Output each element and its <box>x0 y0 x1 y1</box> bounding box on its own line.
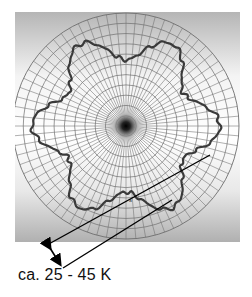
annotation-label: ca. 25 - 45 K <box>18 266 111 284</box>
center-dot <box>112 112 140 140</box>
polar-diagram: a <box>0 0 252 297</box>
double-arrow <box>50 248 60 264</box>
